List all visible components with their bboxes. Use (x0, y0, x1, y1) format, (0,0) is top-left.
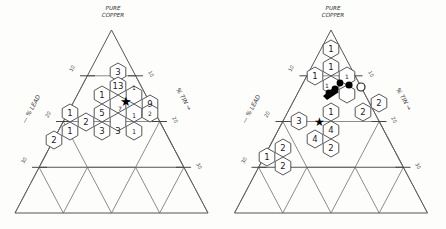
hex-value: 1 (328, 44, 333, 54)
tick-label-tin: 20 (171, 116, 179, 125)
hex-value: 2 (360, 107, 365, 117)
hex-value: 5 (99, 108, 104, 118)
tick-label-lead: 30 (20, 156, 28, 165)
hex-value: 1 (325, 82, 329, 89)
tick-label-tin: 30 (195, 162, 203, 171)
ternary-diagram-left-svg: 3 13 1 1 7 9 5 1 2 3 1 2 3 1 1 2 ★ P (0, 0, 223, 229)
hex-value: 3 (115, 126, 120, 136)
hex-value: 13 (113, 81, 124, 91)
axis-label-lead-right: — % LEAD (240, 93, 262, 124)
ternary-diagram-right-svg: 1 1 1 1 1 1 2 2 3 4 4 2 2 1 2 (223, 0, 446, 229)
hex-value: 2 (280, 143, 285, 153)
hex-value: 1 (132, 128, 136, 136)
hex-value: 1 (132, 84, 136, 91)
hex-value: 1 (99, 90, 104, 100)
tick-label-tin: 20 (390, 116, 398, 125)
apex-label-left: PURE COPPER (102, 5, 125, 18)
hex-value: 1 (345, 73, 349, 80)
hex-value: 1 (67, 108, 72, 118)
axis-label-lead-left: — % LEAD (20, 93, 42, 124)
hex-value: 9 (147, 99, 152, 109)
apex-label-line2: COPPER (322, 12, 345, 18)
hex-value: 1 (67, 126, 72, 136)
tick-label-tin: 10 (147, 70, 155, 79)
axis-label-tin-right: % TIN → (395, 86, 413, 111)
hex-value: 1 (328, 62, 333, 72)
hex-cluster-right (259, 40, 387, 175)
figure-root: 3 13 1 1 7 9 5 1 2 3 1 2 3 1 1 2 ★ P (0, 0, 446, 229)
filled-circle-marker (337, 80, 344, 87)
hex-value: 1 (264, 152, 269, 162)
hex-value: 1 (312, 71, 317, 81)
star-marker: ★ (314, 115, 325, 129)
hex-value: 2 (328, 143, 333, 153)
hex-value: 2 (376, 98, 381, 108)
tick-label-lead: 20 (263, 110, 271, 119)
apex-label-line1: PURE (106, 5, 121, 11)
hex-value: 1 (132, 112, 136, 120)
ternary-panel-right: 1 1 1 1 1 1 2 2 3 4 4 2 2 1 2 (223, 0, 446, 229)
tick-label-tin: 30 (414, 162, 422, 171)
hex-value: 2 (280, 161, 285, 171)
tick-label-lead: 10 (68, 64, 76, 73)
hex-value: 4 (328, 125, 333, 135)
hex-value: 4 (312, 134, 317, 144)
tick-label-tin: 10 (367, 70, 375, 79)
tick-label-lead: 10 (287, 64, 295, 73)
tick-label-lead: 20 (44, 110, 52, 119)
hex-value: 2 (148, 110, 152, 117)
apex-label-line2: COPPER (102, 12, 125, 18)
hex-value: 2 (51, 135, 56, 145)
hex-value: 3 (115, 67, 120, 77)
hex-value: 1 (328, 107, 333, 117)
open-circle-marker (357, 83, 365, 91)
filled-circle-marker (345, 81, 352, 88)
ternary-panel-left: 3 13 1 1 7 9 5 1 2 3 1 2 3 1 1 2 ★ P (0, 0, 223, 229)
hex-value: 3 (296, 116, 301, 126)
star-marker: ★ (120, 94, 132, 109)
apex-label-right: PURE COPPER (322, 5, 345, 18)
axis-label-tin-left: % TIN → (175, 86, 193, 111)
hex-value: 3 (99, 126, 104, 136)
hex-value: 2 (83, 117, 88, 127)
apex-label-line1: PURE (326, 5, 341, 11)
tick-label-lead: 30 (240, 156, 248, 165)
